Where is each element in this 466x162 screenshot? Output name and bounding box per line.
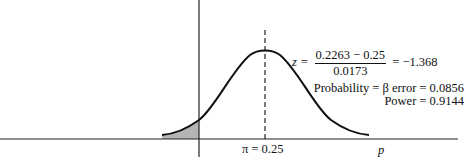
power-label: Power = 0.9144 [384,95,464,108]
z-prefix: z = [292,55,308,69]
center-label: π = 0.25 [242,143,284,156]
x-axis-label: p [378,144,384,157]
z-formula: z = 0.2263 − 0.25 0.0173 = −1.368 [292,49,438,77]
z-fraction: 0.2263 − 0.25 0.0173 [315,49,387,77]
z-denominator: 0.0173 [315,64,387,78]
z-result: = −1.368 [392,55,437,69]
z-numerator: 0.2263 − 0.25 [315,49,387,64]
probability-label: Probability = β error = 0.0856 [314,82,464,95]
